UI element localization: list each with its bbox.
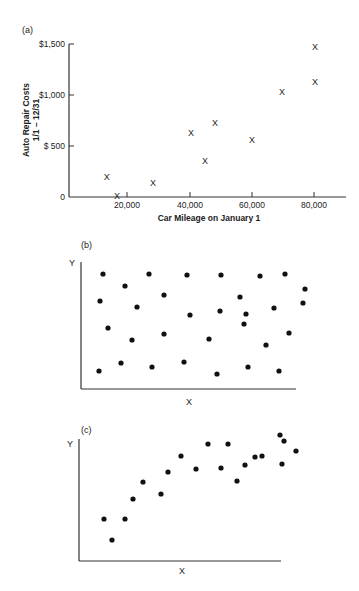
data-point-dot	[218, 272, 223, 277]
x-axis-title: X	[179, 566, 185, 576]
data-point-x-marker: X	[249, 135, 255, 145]
data-point-dot	[217, 308, 222, 313]
data-point-dot	[181, 359, 186, 364]
data-point-dot	[279, 461, 284, 466]
y-tick-label: 0	[60, 192, 65, 202]
y-tick-label: $1,000	[39, 90, 65, 100]
data-point-dot	[206, 336, 211, 341]
data-point-dot	[282, 271, 287, 276]
data-point-dot	[161, 292, 166, 297]
data-points-b	[96, 271, 307, 376]
data-point-dot	[96, 368, 101, 373]
data-point-dot	[225, 441, 230, 446]
y-tick-label: $ 500	[44, 141, 66, 151]
y-axis-title: Auto Repair Costs 1/1 – 12/31	[21, 83, 41, 157]
data-point-dot	[165, 469, 170, 474]
data-point-dot	[122, 283, 127, 288]
data-point-dot	[286, 330, 291, 335]
data-point-dot	[158, 491, 163, 496]
data-point-dot	[214, 371, 219, 376]
data-point-dot	[101, 516, 106, 521]
data-point-x-marker: X	[202, 156, 208, 166]
panel-c-label: (c)	[81, 425, 92, 435]
data-point-dot	[252, 454, 257, 459]
figure: (a) $1,500 $1,000 $ 500 0 20,000 40,000 …	[0, 0, 359, 591]
panel-a-label: (a)	[22, 25, 33, 35]
data-point-dot	[257, 273, 262, 278]
data-point-dot	[271, 305, 276, 310]
data-point-x-marker: X	[212, 118, 218, 128]
y-axis-title: Y	[67, 439, 73, 449]
data-point-x-marker: X	[188, 128, 194, 138]
data-point-dot	[243, 311, 248, 316]
panel-c: (c) Y X	[67, 425, 299, 576]
data-points-c	[101, 432, 298, 542]
data-point-dot	[234, 478, 239, 483]
x-axis-title: Car Mileage on January 1	[158, 213, 261, 223]
panel-b: (b) Y X	[69, 240, 308, 407]
svg-text:Auto Repair Costs: Auto Repair Costs	[21, 83, 31, 157]
data-point-dot	[237, 294, 242, 299]
data-point-dot	[130, 496, 135, 501]
data-point-x-marker: X	[312, 42, 318, 52]
data-point-dot	[241, 321, 246, 326]
data-points-a: XXXXXXXXXX	[104, 42, 318, 201]
data-point-dot	[293, 448, 298, 453]
data-point-dot	[149, 364, 154, 369]
data-point-dot	[105, 325, 110, 330]
svg-text:1/1 – 12/31: 1/1 – 12/31	[31, 98, 41, 141]
panel-a: (a) $1,500 $1,000 $ 500 0 20,000 40,000 …	[21, 25, 346, 223]
data-point-dot	[184, 272, 189, 277]
x-ticks: 20,000 40,000 60,000 80,000	[114, 192, 327, 210]
data-point-dot	[302, 286, 307, 291]
data-point-dot	[161, 331, 166, 336]
data-point-dot	[109, 537, 114, 542]
data-point-dot	[129, 337, 134, 342]
data-point-x-marker: X	[104, 172, 110, 182]
x-tick-label: 80,000	[301, 200, 327, 210]
data-point-dot	[281, 438, 286, 443]
data-point-dot	[134, 304, 139, 309]
x-tick-label: 40,000	[177, 200, 203, 210]
data-point-dot	[245, 364, 250, 369]
data-point-dot	[178, 453, 183, 458]
data-point-dot	[259, 453, 264, 458]
data-point-dot	[122, 516, 127, 521]
y-tick-label: $1,500	[39, 39, 65, 49]
data-point-x-marker: X	[150, 178, 156, 188]
data-point-x-marker: X	[114, 191, 120, 201]
y-axis-title: Y	[69, 258, 75, 268]
data-point-dot	[146, 271, 151, 276]
data-point-dot	[205, 441, 210, 446]
data-point-dot	[300, 300, 305, 305]
data-point-dot	[187, 312, 192, 317]
data-point-x-marker: X	[279, 87, 285, 97]
data-point-dot	[97, 298, 102, 303]
data-point-dot	[118, 360, 123, 365]
data-point-x-marker: X	[312, 77, 318, 87]
data-point-dot	[263, 342, 268, 347]
x-tick-label: 20,000	[114, 200, 140, 210]
data-point-dot	[193, 466, 198, 471]
data-point-dot	[276, 368, 281, 373]
data-point-dot	[242, 462, 247, 467]
data-point-dot	[277, 432, 282, 437]
data-point-dot	[100, 271, 105, 276]
x-axis-title: X	[186, 397, 192, 407]
panel-b-label: (b)	[81, 240, 92, 250]
x-tick-label: 60,000	[239, 200, 265, 210]
data-point-dot	[218, 465, 223, 470]
data-point-dot	[140, 479, 145, 484]
